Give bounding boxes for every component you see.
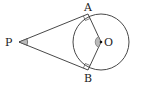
angle-p-mark bbox=[19, 39, 28, 45]
tangent-circle-diagram: P A B O bbox=[0, 0, 145, 94]
diagram-canvas: P A B O bbox=[0, 0, 145, 94]
tangent-pb bbox=[19, 42, 88, 70]
tangent-pa bbox=[19, 14, 88, 42]
label-o: O bbox=[104, 36, 113, 49]
label-b: B bbox=[84, 72, 92, 85]
label-p: P bbox=[5, 36, 13, 49]
center-point-o bbox=[100, 41, 103, 44]
label-a: A bbox=[83, 1, 93, 14]
